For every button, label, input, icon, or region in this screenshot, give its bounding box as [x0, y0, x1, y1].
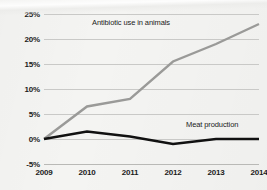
series-line-meat-production [44, 132, 259, 145]
plot-area [44, 14, 259, 164]
y-axis-tick-label: 20% [0, 35, 40, 44]
series-label-antibiotic-use: Antibiotic use in animals [92, 18, 170, 27]
series-label-meat-production: Meat production [186, 120, 238, 129]
y-axis-tick-label: 5% [0, 110, 40, 119]
x-axis-tick-label: 2012 [153, 168, 193, 177]
x-axis-tick-label: 2013 [196, 168, 236, 177]
y-axis-tick-label: 25% [0, 10, 40, 19]
x-axis-tick-label: 2009 [24, 168, 64, 177]
y-axis-tick-label: 10% [0, 85, 40, 94]
line-chart: 25%20%15%10%5%0%-5% 20092010201120122013… [0, 0, 267, 190]
x-axis-tick-label: 2011 [110, 168, 150, 177]
y-axis-tick-label: 15% [0, 60, 40, 69]
y-axis-tick-label: 0% [0, 135, 40, 144]
series-lines [44, 14, 259, 164]
x-axis-tick-label: 2010 [67, 168, 107, 177]
gridline [44, 164, 259, 165]
x-axis-tick-label: 2014 [239, 168, 267, 177]
